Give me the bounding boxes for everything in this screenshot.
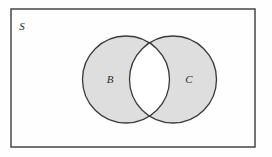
universal-set-label: S xyxy=(19,20,25,32)
set-c-label: C xyxy=(185,73,193,85)
venn-diagram-canvas: S B C xyxy=(0,0,272,157)
set-b-label: B xyxy=(107,73,114,85)
venn-diagram-figure: S B C xyxy=(0,0,272,157)
